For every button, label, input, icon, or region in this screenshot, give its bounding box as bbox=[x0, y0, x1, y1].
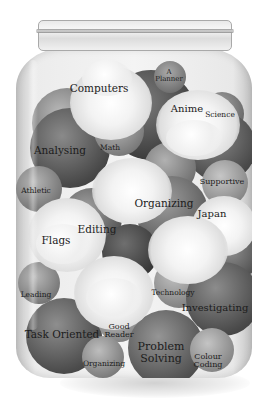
label-math: Math bbox=[100, 144, 120, 152]
label-organizing-mid: Organizing bbox=[134, 198, 193, 209]
cloud-anime-puff bbox=[166, 120, 222, 156]
label-good-reader: Good Reader bbox=[104, 323, 133, 340]
label-good-reader-line2: Reader bbox=[104, 331, 133, 339]
label-investigating: Investigating bbox=[182, 303, 249, 314]
label-analysing: Analysing bbox=[34, 145, 86, 156]
sphere-organizing-low bbox=[82, 336, 124, 378]
label-colour-coding: Colour Coding bbox=[194, 353, 223, 370]
label-problem-solving-line1: Problem bbox=[138, 341, 185, 353]
label-problem-solving-line2: Solving bbox=[138, 353, 185, 365]
label-science: Science bbox=[205, 111, 235, 119]
label-leading: Leading bbox=[21, 291, 52, 299]
label-colour-coding-line2: Coding bbox=[194, 361, 223, 369]
label-supportive: Supportive bbox=[200, 178, 245, 186]
cloud-right-mid bbox=[148, 216, 228, 284]
cloud-center-low-puff bbox=[86, 278, 142, 318]
label-athletic: Athletic bbox=[21, 187, 51, 195]
label-a-planner-line2: Planner bbox=[155, 76, 183, 83]
label-organizing-low: Organizing bbox=[83, 360, 125, 368]
jar-lid-rim bbox=[36, 29, 234, 33]
label-japan: Japan bbox=[198, 209, 227, 220]
label-technology: Technology bbox=[151, 289, 194, 297]
jar-lid bbox=[38, 20, 232, 51]
cloud-center-organizing bbox=[92, 158, 172, 224]
label-computers: Computers bbox=[70, 83, 129, 94]
label-flags: Flags bbox=[41, 235, 70, 246]
label-problem-solving: Problem Solving bbox=[138, 341, 185, 364]
jar-illustration: Computers A Planner Anime Science Analys… bbox=[0, 0, 262, 405]
label-anime: Anime bbox=[171, 104, 203, 115]
label-a-planner: A Planner bbox=[155, 69, 183, 84]
label-task-oriented: Task Oriented bbox=[25, 329, 100, 340]
label-editing: Editing bbox=[78, 224, 117, 235]
